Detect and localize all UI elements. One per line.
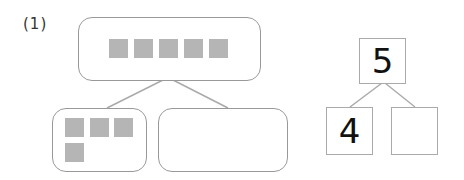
part-b-answer-box[interactable] bbox=[391, 107, 438, 155]
counter-square bbox=[65, 118, 84, 137]
counter-square bbox=[134, 39, 153, 58]
counter-square bbox=[90, 118, 109, 137]
counter-square bbox=[159, 39, 178, 58]
part-a-number-box: 4 bbox=[326, 107, 373, 155]
part-b-box[interactable] bbox=[158, 108, 288, 172]
counter-square bbox=[65, 143, 84, 162]
counter-square bbox=[109, 39, 128, 58]
counter-square bbox=[184, 39, 203, 58]
problem-label: (1) bbox=[23, 15, 47, 33]
counter-square bbox=[209, 39, 228, 58]
counter-square bbox=[114, 118, 133, 137]
whole-number-box: 5 bbox=[359, 38, 406, 84]
